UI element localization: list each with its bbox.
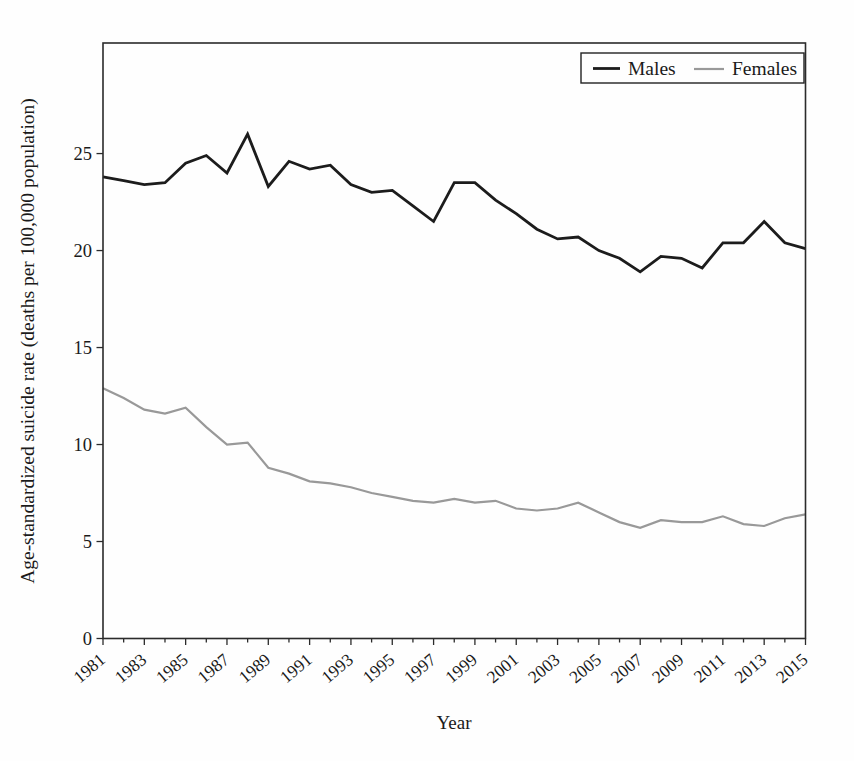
legend-label-females: Females xyxy=(732,58,797,79)
series-line-males xyxy=(103,134,806,272)
y-tick-label: 5 xyxy=(83,532,92,552)
x-tick-label: 1987 xyxy=(193,649,233,687)
x-tick-label: 2011 xyxy=(690,649,729,686)
x-tick-label: 1999 xyxy=(441,649,481,687)
x-tick-label: 1981 xyxy=(69,649,109,687)
x-tick-label: 1997 xyxy=(400,649,440,687)
x-tick-label: 2015 xyxy=(772,649,812,687)
x-tick-label: 1985 xyxy=(152,649,192,687)
y-axis-title: Age-standardized suicide rate (deaths pe… xyxy=(17,98,39,584)
axis-ticks: 1981198319851987198919911993199519971999… xyxy=(69,144,811,687)
y-tick-label: 15 xyxy=(74,338,93,358)
x-tick-label: 1989 xyxy=(235,649,275,687)
x-tick-label: 2013 xyxy=(731,649,771,687)
x-tick-label: 2005 xyxy=(565,649,605,687)
x-tick-label: 1993 xyxy=(317,649,357,687)
plot-area-border xyxy=(103,43,806,639)
line-chart: 1981198319851987198919911993199519971999… xyxy=(0,0,854,761)
x-tick-label: 2007 xyxy=(607,649,647,687)
x-tick-label: 1991 xyxy=(276,649,316,687)
x-tick-label: 1983 xyxy=(111,649,151,687)
legend-label-males: Males xyxy=(628,58,676,79)
legend: Males Females xyxy=(581,53,804,83)
series-line-females xyxy=(103,388,806,528)
figure-suicide-rate-chart: 1981198319851987198919911993199519971999… xyxy=(0,0,854,761)
y-tick-label: 0 xyxy=(83,629,92,649)
y-tick-label: 10 xyxy=(74,435,93,455)
series-lines xyxy=(103,134,806,528)
x-tick-label: 1995 xyxy=(359,649,399,687)
x-tick-label: 2001 xyxy=(483,649,523,687)
x-axis-title: Year xyxy=(436,712,472,733)
x-tick-label: 2003 xyxy=(524,649,564,687)
x-tick-label: 2009 xyxy=(648,649,688,687)
y-tick-label: 20 xyxy=(74,241,93,261)
y-tick-label: 25 xyxy=(74,144,93,164)
